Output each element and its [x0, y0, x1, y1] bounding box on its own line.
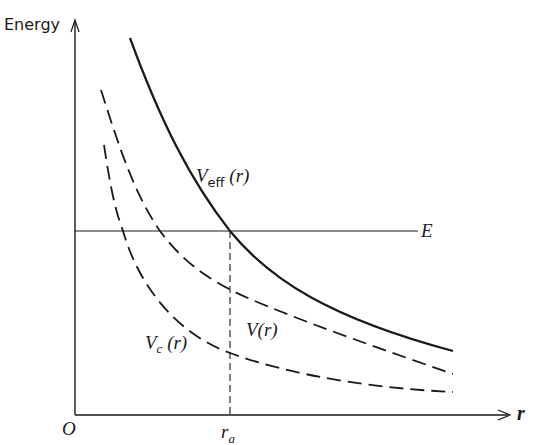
v-label: V(r): [246, 320, 278, 339]
veff-label: Veff (r): [196, 166, 249, 185]
veff-base: V: [196, 165, 208, 186]
v-base: V: [246, 319, 258, 340]
veff-arg: (r): [225, 165, 250, 186]
y-axis: [71, 20, 79, 415]
veff-sub: eff: [208, 175, 225, 190]
y-axis-label: Energy: [4, 17, 60, 33]
energy-label: E: [421, 221, 433, 240]
ra-tick-label: ra: [221, 422, 235, 441]
v-arg: (r): [258, 319, 278, 340]
veff-curve: [130, 38, 453, 351]
vc-sub: c: [157, 341, 163, 356]
vc-arg: (r): [162, 332, 187, 353]
x-axis-label: r: [517, 403, 525, 423]
vc-label: Vc (r): [145, 333, 187, 352]
origin-label: O: [62, 419, 76, 438]
vc-base: V: [145, 332, 157, 353]
diagram-canvas: [0, 0, 536, 445]
ra-sub: a: [228, 431, 235, 445]
x-axis: [75, 410, 510, 420]
